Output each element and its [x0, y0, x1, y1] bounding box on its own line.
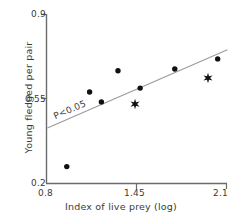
data-point-star: [131, 99, 140, 109]
data-points-group: [64, 56, 220, 169]
x-tick-label-right: 2.1: [213, 188, 228, 198]
x-axis-title: Index of live prey (log): [0, 201, 242, 212]
y-axis-title: Young fledged per pair: [23, 13, 34, 183]
regression-line-path: [47, 50, 227, 128]
data-point-circle: [172, 66, 177, 71]
regression-line: [47, 50, 227, 128]
data-point-circle: [99, 99, 104, 104]
data-point-circle: [87, 89, 92, 94]
data-point-star: [204, 73, 213, 83]
x-tick-label-mid: 1.45: [124, 188, 145, 198]
x-tick-label-left: 0.8: [38, 188, 53, 198]
data-point-circle: [115, 68, 120, 73]
data-point-circle: [215, 56, 220, 61]
data-point-circle: [64, 164, 69, 169]
data-point-circle: [137, 85, 142, 90]
scatter-plot-figure: 0.9 0.55 0.2 0.8 1.45 2.1 Index of live …: [0, 0, 242, 220]
